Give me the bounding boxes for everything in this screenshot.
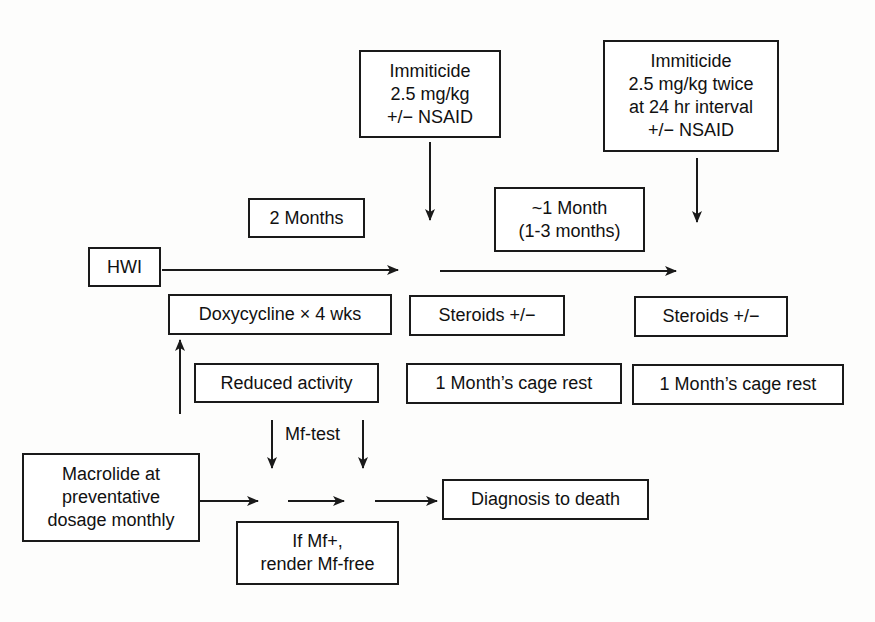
if-mf-positive-box: If Mf+, render Mf-free bbox=[236, 521, 399, 585]
two-months-box: 2 Months bbox=[248, 198, 365, 238]
one-month-box: ~1 Month (1-3 months) bbox=[494, 187, 645, 252]
cage-rest-box-1: 1 Month’s cage rest bbox=[406, 363, 622, 404]
immiticide-double-dose-box: Immiticide 2.5 mg/kg twice at 24 hr inte… bbox=[603, 40, 779, 152]
mf-test-label: Mf-test bbox=[285, 423, 340, 445]
macrolide-box: Macrolide at preventative dosage monthly bbox=[22, 453, 200, 542]
reduced-activity-box: Reduced activity bbox=[194, 363, 379, 403]
diagram-canvas: Immiticide 2.5 mg/kg +/− NSAID Immiticid… bbox=[0, 0, 875, 622]
steroids-box-1: Steroids +/− bbox=[409, 295, 565, 336]
diagnosis-to-death-box: Diagnosis to death bbox=[442, 479, 649, 520]
steroids-box-2: Steroids +/− bbox=[634, 296, 788, 337]
doxycycline-box: Doxycycline × 4 wks bbox=[168, 294, 392, 335]
hwi-box: HWI bbox=[88, 247, 161, 287]
immiticide-single-dose-box: Immiticide 2.5 mg/kg +/− NSAID bbox=[359, 50, 501, 138]
cage-rest-box-2: 1 Month’s cage rest bbox=[632, 364, 844, 405]
